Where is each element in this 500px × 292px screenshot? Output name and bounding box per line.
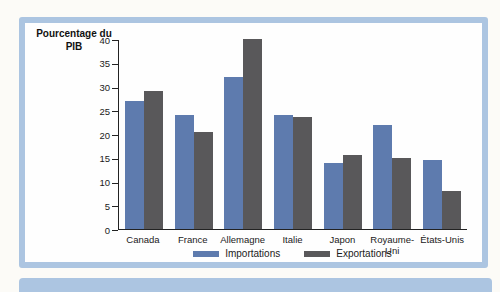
bar-exportations-japon: [343, 155, 362, 229]
bar-exportations-allemagne: [243, 39, 262, 229]
y-tick-label-10: 10: [99, 178, 110, 188]
bar-group-japon: [318, 40, 368, 229]
legend-item-importations: Importations: [193, 249, 280, 259]
y-tick-20: [112, 135, 118, 136]
y-tick-label-30: 30: [99, 83, 110, 93]
next-card-top-edge: [19, 278, 492, 292]
bar-exportations-e-tats-unis: [442, 191, 461, 229]
bar-importations-italie: [274, 115, 293, 229]
y-tick-label-40: 40: [99, 36, 110, 46]
legend-label-exportations: Exportations: [336, 249, 392, 259]
y-tick-label-35: 35: [99, 59, 110, 69]
y-tick-25: [112, 111, 118, 112]
legend: ImportationsExportations: [118, 249, 467, 259]
y-tick-label-0: 0: [105, 226, 110, 236]
bars-container: [119, 40, 467, 229]
bar-exportations-canada: [144, 91, 163, 229]
legend-swatch-exportations: [304, 251, 330, 257]
y-tick-40: [112, 40, 118, 41]
bar-group-canada: [119, 40, 169, 229]
y-tick-15: [112, 159, 118, 160]
bar-importations-france: [175, 115, 194, 229]
bar-exportations-royaume-uni: [392, 158, 411, 229]
y-tick-30: [112, 88, 118, 89]
bar-importations-allemagne: [224, 77, 243, 229]
y-tick-label-25: 25: [99, 107, 110, 117]
bar-exportations-italie: [293, 117, 312, 229]
bar-group-allemagne: [218, 40, 268, 229]
legend-swatch-importations: [193, 251, 219, 257]
bar-group-e-tats-unis: [417, 40, 467, 229]
bar-importations-japon: [324, 163, 343, 230]
y-tick-35: [112, 64, 118, 65]
chart-card: Pourcentage du PIB 0510152025303540 Cana…: [19, 17, 488, 268]
y-tick-5: [112, 206, 118, 207]
y-tick-10: [112, 183, 118, 184]
bar-importations-canada: [125, 101, 144, 229]
y-tick-0: [112, 230, 118, 231]
bar-group-italie: [268, 40, 318, 229]
bar-group-france: [169, 40, 219, 229]
bar-group-royaume-uni: [368, 40, 418, 229]
y-tick-label-15: 15: [99, 154, 110, 164]
y-tick-label-5: 5: [105, 202, 110, 212]
legend-label-importations: Importations: [225, 249, 280, 259]
bar-exportations-france: [194, 132, 213, 229]
bar-importations-royaume-uni: [373, 125, 392, 230]
legend-item-exportations: Exportations: [304, 249, 392, 259]
bar-importations-e-tats-unis: [423, 160, 442, 229]
plot-area: 0510152025303540: [118, 40, 467, 230]
y-tick-label-20: 20: [99, 131, 110, 141]
